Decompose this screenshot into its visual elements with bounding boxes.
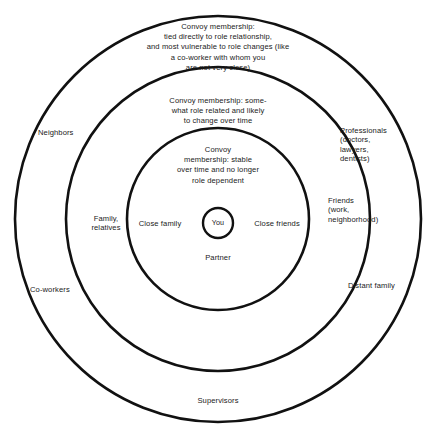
label-partner: Partner (192, 253, 244, 262)
label-distant-family: Distant family (348, 281, 428, 290)
label-co-workers: Co-workers (30, 285, 108, 294)
middle-ring-description: Convoy membership: some- what role relat… (123, 96, 313, 127)
label-close-family: Close family (129, 219, 191, 228)
label-neighbors: Neighbors (38, 128, 108, 137)
label-supervisors: Supervisors (178, 396, 258, 405)
label-friends: Friends (work, neighborhood) (328, 196, 390, 224)
label-family-relatives: Family, relatives (78, 214, 134, 233)
label-professionals: Professionals (doctors, lawyers, dentist… (340, 126, 420, 163)
outer-ring-description: Convoy membership: tied directly to role… (103, 22, 333, 73)
convoy-diagram: Convoy membership: tied directly to role… (0, 0, 436, 430)
label-close-friends: Close friends (245, 219, 309, 228)
label-you: You (203, 219, 233, 228)
inner-ring-description: Convoy membership: stable over time and … (143, 145, 293, 186)
